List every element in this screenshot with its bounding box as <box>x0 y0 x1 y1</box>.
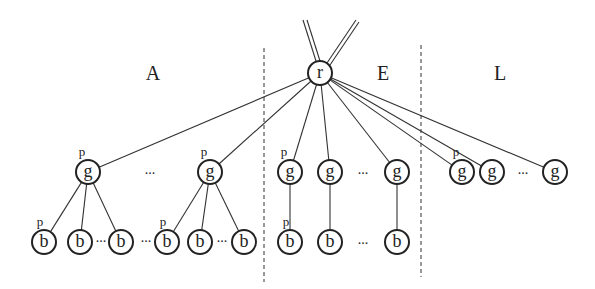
g-node-3-label: g <box>326 161 335 181</box>
ellipsis-5: ... <box>217 230 228 245</box>
edge-root-to-g-2 <box>293 84 316 160</box>
b-node-2: b <box>109 230 133 254</box>
b-node-5: b <box>232 230 256 254</box>
p-label-b-6: p <box>283 214 290 229</box>
tree-diagram: AEL rgpgpgpgggpggbpbbbpbbbpbb...........… <box>0 0 595 289</box>
tree-edges <box>50 20 544 232</box>
b-node-8: b <box>385 230 409 254</box>
b-node-1-label: b <box>76 231 85 251</box>
root-incoming-edge-right-b <box>330 22 359 65</box>
b-node-2-label: b <box>117 231 126 251</box>
g-node-2: g <box>278 160 302 184</box>
tree-nodes: rgpgpgpgggpggbpbbbpbbbpbb...............… <box>32 61 567 254</box>
edge-root-to-g-1 <box>219 81 311 164</box>
b-node-4-label: b <box>196 231 205 251</box>
g-node-7-label: g <box>551 161 560 181</box>
ellipsis-2: ... <box>518 162 529 177</box>
b-node-6: b <box>278 230 302 254</box>
b-node-7-label: b <box>326 231 335 251</box>
b-node-3: b <box>155 230 179 254</box>
edge-g0-to-b-0 <box>50 182 81 232</box>
b-node-6-label: b <box>286 231 295 251</box>
g-node-7: g <box>543 160 567 184</box>
p-label-g-2: p <box>281 144 288 159</box>
region-label-a: A <box>146 62 161 84</box>
edge-g0-to-b-1 <box>81 184 86 230</box>
ellipsis-1: ... <box>358 162 369 177</box>
edge-g1-to-b-4 <box>202 184 209 230</box>
p-label-b-3: p <box>160 214 167 229</box>
g-node-2-label: g <box>286 161 295 181</box>
b-node-0-label: b <box>40 231 49 251</box>
g-node-6: g <box>480 160 504 184</box>
g-node-0-label: g <box>84 161 93 181</box>
edge-root-to-g-5 <box>330 80 452 165</box>
g-node-1: g <box>198 160 222 184</box>
g-node-4-label: g <box>393 161 402 181</box>
edge-g1-to-b-3 <box>173 182 203 232</box>
g-node-6-label: g <box>488 161 497 181</box>
b-node-7: b <box>318 230 342 254</box>
b-node-3-label: b <box>163 231 172 251</box>
ellipsis-4: ... <box>141 230 152 245</box>
root-node-label: r <box>317 62 323 82</box>
region-label-e: E <box>377 62 389 84</box>
p-label-g-0: p <box>79 144 86 159</box>
g-node-0: g <box>76 160 100 184</box>
b-node-4: b <box>188 230 212 254</box>
g-node-4: g <box>385 160 409 184</box>
edge-g1-to-b-5 <box>215 183 239 231</box>
g-node-5-label: g <box>458 161 467 181</box>
root-node: r <box>308 61 332 85</box>
b-node-8-label: b <box>393 231 402 251</box>
b-node-0: b <box>32 230 56 254</box>
edge-root-to-g-3 <box>321 85 329 160</box>
edge-root-to-g-7 <box>331 78 544 168</box>
edge-g0-to-b-2 <box>93 183 116 231</box>
b-node-5-label: b <box>240 231 249 251</box>
ellipsis-0: ... <box>145 162 156 177</box>
region-label-l: L <box>494 62 506 84</box>
p-label-g-1: p <box>201 144 208 159</box>
g-node-3: g <box>318 160 342 184</box>
ellipsis-6: ... <box>358 232 369 247</box>
g-node-1-label: g <box>206 161 215 181</box>
ellipsis-3: ... <box>96 230 107 245</box>
root-incoming-edge-right-a <box>327 20 356 63</box>
p-label-b-0: p <box>37 214 44 229</box>
g-node-5: g <box>450 160 474 184</box>
b-node-1: b <box>68 230 92 254</box>
p-label-g-5: p <box>453 144 460 159</box>
edge-root-to-g-4 <box>327 82 389 162</box>
